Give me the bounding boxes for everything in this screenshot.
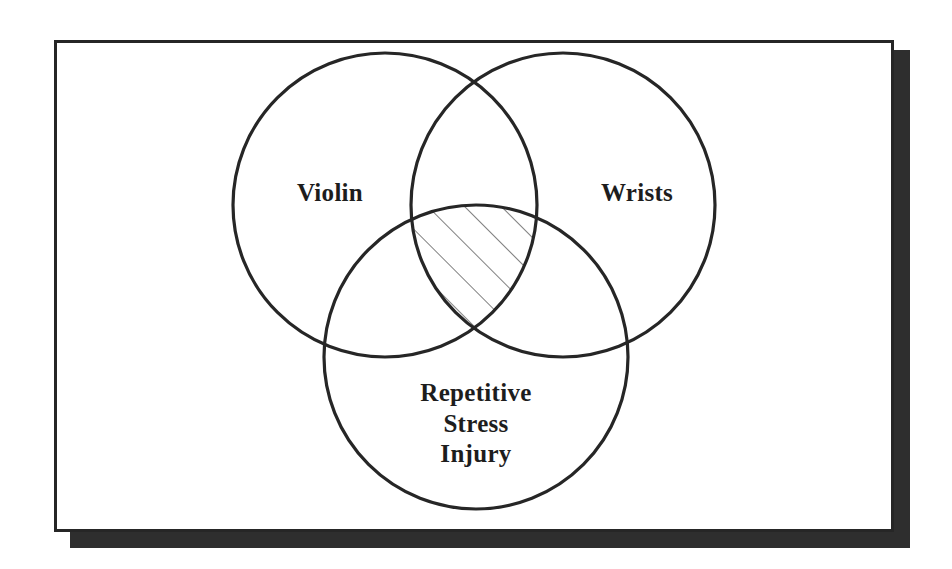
venn-diagram-figure: Violin Wrists Repetitive Stress Injury [0,0,952,569]
venn-circles-canvas [0,0,952,569]
set-label-violin: Violin [250,178,410,209]
set-label-wrists: Wrists [552,178,722,209]
set-label-repetitive-stress-injury: Repetitive Stress Injury [386,378,566,470]
